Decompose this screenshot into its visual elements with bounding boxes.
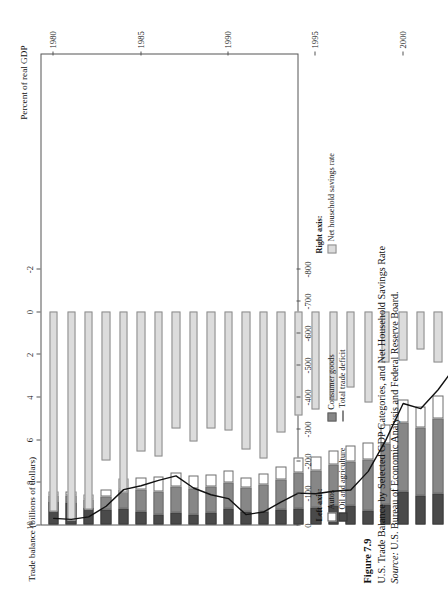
- left-axis-tick: [296, 460, 300, 461]
- chart-figure: Trade balance (billions of dollars) Perc…: [14, 27, 344, 583]
- consumer-goods-swatch: [327, 412, 336, 421]
- left-axis-tick: [296, 268, 300, 269]
- left-axis-tick-label: -400: [302, 389, 312, 405]
- bar-segment-oil: [432, 493, 442, 524]
- right-axis-tick-label: 4: [24, 395, 34, 399]
- left-axis-tick: [296, 300, 300, 301]
- right-axis-tick-label: 6: [24, 437, 34, 441]
- bar-savings-rate: [416, 311, 424, 349]
- x-axis-tick-label: 1980: [47, 31, 57, 48]
- legend-label-savings-rate: Net household savings rate: [326, 153, 336, 241]
- left-axis-tick: [296, 492, 300, 493]
- source-label: Source:: [388, 552, 399, 583]
- x-axis-tick-label: 1995: [309, 31, 319, 48]
- right-axis-tick-label: 10: [24, 521, 34, 530]
- left-axis-tick-label: -300: [302, 421, 312, 437]
- legend-item-total-trade-deficit: Total trade deficit: [337, 349, 347, 421]
- right-axis-tick-label: 2: [24, 352, 34, 356]
- total-trade-deficit-line-swatch: [342, 410, 343, 421]
- legend-right-axis: Right axis: Net household savings rate: [314, 153, 337, 253]
- legend-label-autos: Autos: [326, 489, 336, 509]
- right-axis-tick-label: 0: [24, 309, 34, 313]
- figure-number: Figure 7.9: [360, 163, 374, 583]
- figure-title: U.S. Trade Balance by Selected GDP Categ…: [374, 163, 388, 583]
- oil-swatch: [338, 512, 347, 521]
- x-axis-tick-label: 1990: [222, 31, 232, 48]
- left-axis-tick: [296, 428, 300, 429]
- legend-label-consumer-goods: Consumer goods: [326, 354, 336, 409]
- right-axis-tick: [36, 311, 40, 312]
- legend-item-savings-rate: Net household savings rate: [326, 153, 336, 253]
- right-axis-title: Percent of real GDP: [18, 45, 28, 119]
- right-axis-tick: [36, 353, 40, 354]
- right-axis-tick: [36, 268, 40, 269]
- x-axis-tick: [140, 51, 141, 55]
- plot-area: [40, 53, 298, 525]
- left-axis-tick-label: 0: [302, 523, 312, 527]
- x-axis-tick-label: 1985: [135, 31, 145, 48]
- right-axis-tick: [36, 396, 40, 397]
- legend-left-title: Left axis:: [314, 349, 324, 521]
- legend-item-consumer-goods: Consumer goods: [326, 349, 336, 421]
- left-axis-tick-label: -600: [302, 325, 312, 341]
- legend-label-oil: Oil and agriculture: [337, 447, 347, 509]
- x-axis-tick: [402, 51, 403, 55]
- figure-page: Trade balance (billions of dollars) Perc…: [0, 0, 448, 611]
- left-axis-tick-label: -800: [302, 261, 312, 277]
- right-axis-tick: [36, 439, 40, 440]
- legend-item-autos: Autos: [326, 447, 336, 521]
- x-axis-tick: [227, 51, 228, 55]
- left-axis-tick-label: -200: [302, 453, 312, 469]
- x-axis-tick: [314, 51, 315, 55]
- figure-caption: Figure 7.9 U.S. Trade Balance by Selecte…: [360, 163, 401, 583]
- total-trade-deficit-line: [41, 54, 297, 524]
- rotated-page-wrapper: Trade balance (billions of dollars) Perc…: [0, 0, 448, 611]
- left-axis-title: Trade balance (billions of dollars): [26, 456, 36, 581]
- bar-segment-consumer-goods: [432, 418, 442, 494]
- right-axis-tick: [36, 524, 40, 525]
- left-axis-tick-label: -500: [302, 357, 312, 373]
- bar-segment-autos: [432, 395, 442, 418]
- bar-segment-oil: [415, 495, 425, 524]
- bar-segment-autos: [415, 406, 425, 427]
- right-axis-tick-label: -2: [24, 265, 34, 272]
- legend-label-total-trade-deficit: Total trade deficit: [337, 349, 347, 407]
- left-axis-tick: [296, 524, 300, 525]
- legend-item-oil: Oil and agriculture: [337, 447, 347, 521]
- left-axis-tick: [296, 332, 300, 333]
- legend-right-title: Right axis:: [314, 153, 324, 253]
- x-axis-tick: [52, 51, 53, 55]
- source-text: U.S. Bureau of Economic Analysis and Fed…: [388, 291, 399, 552]
- figure-source: Source: U.S. Bureau of Economic Analysis…: [387, 163, 401, 583]
- bar-segment-consumer-goods: [415, 427, 425, 494]
- legend-left-axis: Left axis: Autos Oil and agriculture: [314, 349, 348, 521]
- right-axis-tick: [36, 481, 40, 482]
- bar-savings-rate: [433, 311, 441, 362]
- autos-swatch: [327, 512, 336, 521]
- right-axis-tick-label: 8: [24, 480, 34, 484]
- left-axis-tick: [296, 396, 300, 397]
- left-axis-tick-label: -700: [302, 293, 312, 309]
- left-axis-tick-label: -100: [302, 485, 312, 501]
- x-axis-tick-label: 2000: [397, 31, 407, 48]
- savings-rate-swatch: [327, 244, 336, 253]
- left-axis-tick: [296, 364, 300, 365]
